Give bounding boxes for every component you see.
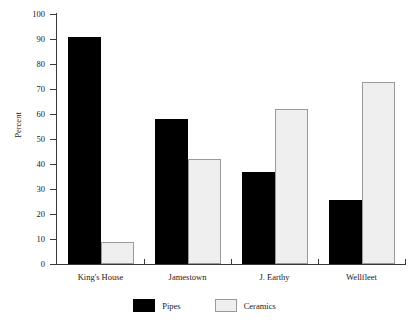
legend-swatch-ceramics xyxy=(215,299,237,312)
y-axis-tick xyxy=(50,239,56,240)
y-axis-tick xyxy=(50,214,56,215)
x-axis-label: King's House xyxy=(57,272,144,282)
y-axis-title: Percent xyxy=(13,95,23,155)
bar-pipes-2 xyxy=(242,172,275,265)
chart-legend: PipesCeramics xyxy=(0,299,409,312)
x-axis-label: Jamestown xyxy=(144,272,231,282)
y-axis-tick-label: 60 xyxy=(5,110,45,119)
y-axis-tick xyxy=(50,164,56,165)
y-axis-tick-label: 40 xyxy=(5,160,45,169)
bar-pipes-0 xyxy=(68,37,101,265)
bar-ceramics-3 xyxy=(362,82,395,265)
legend-item-pipes: Pipes xyxy=(133,299,180,312)
y-axis-tick-label: 100 xyxy=(5,10,45,19)
y-axis-tick-label: 20 xyxy=(5,210,45,219)
y-axis-tick-label: 0 xyxy=(5,260,45,269)
y-axis-tick-label: 90 xyxy=(5,35,45,44)
cropped-title-strip xyxy=(0,0,409,7)
x-axis-label: Wellfleet xyxy=(318,272,405,282)
bar-pipes-1 xyxy=(155,119,188,264)
y-axis-tick-label: 70 xyxy=(5,85,45,94)
y-axis-tick xyxy=(50,114,56,115)
y-axis-tick-label: 30 xyxy=(5,185,45,194)
y-axis-tick xyxy=(50,39,56,40)
bar-ceramics-0 xyxy=(101,242,134,265)
plot-area xyxy=(57,14,405,264)
y-axis-tick xyxy=(50,89,56,90)
legend-item-ceramics: Ceramics xyxy=(215,299,276,312)
y-axis-tick xyxy=(50,14,56,15)
y-axis-tick xyxy=(50,264,56,265)
legend-label-ceramics: Ceramics xyxy=(244,301,276,311)
bar-pipes-3 xyxy=(329,200,362,264)
bar-ceramics-2 xyxy=(275,109,308,264)
bar-ceramics-1 xyxy=(188,159,221,264)
y-axis-tick-label: 50 xyxy=(5,135,45,144)
y-axis-tick xyxy=(50,189,56,190)
x-axis-label: J. Earthy xyxy=(231,272,318,282)
y-axis-tick xyxy=(50,139,56,140)
y-axis-tick xyxy=(50,64,56,65)
y-axis-tick-label: 10 xyxy=(5,235,45,244)
x-axis-tick xyxy=(405,259,406,265)
bar-chart: Percent 0102030405060708090100 King's Ho… xyxy=(0,0,409,328)
legend-swatch-pipes xyxy=(133,299,155,312)
legend-label-pipes: Pipes xyxy=(162,301,180,311)
y-axis-tick-label: 80 xyxy=(5,60,45,69)
